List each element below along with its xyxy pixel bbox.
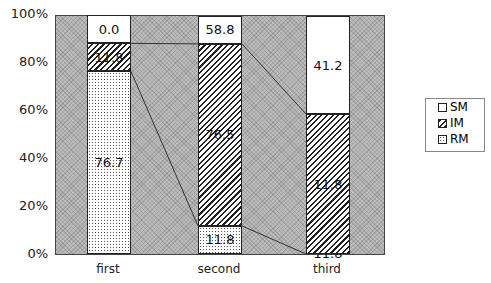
legend-swatch-icon (438, 135, 447, 144)
series-lines (0, 0, 491, 283)
legend-item-sm: SM (426, 99, 484, 115)
legend-swatch-icon (438, 103, 447, 112)
legend-label: RM (450, 132, 469, 146)
legend-label: IM (450, 116, 464, 130)
chart-root: 100% 80% 60% 40% 20% 0% 76.711.80.011.87… (0, 0, 491, 283)
legend-swatch-icon (438, 119, 447, 128)
x-tick: third (287, 262, 367, 276)
x-tick: first (68, 262, 148, 276)
legend-item-im: IM (426, 115, 484, 131)
legend: SMIMRM (425, 98, 485, 152)
x-tick: second (179, 262, 259, 276)
legend-label: SM (450, 100, 468, 114)
legend-item-rm: RM (426, 131, 484, 147)
